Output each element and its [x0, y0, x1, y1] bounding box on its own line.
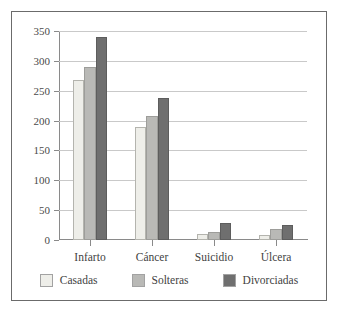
- bar: [259, 235, 270, 240]
- x-tick-mark: [214, 240, 215, 246]
- legend-item: Casadas: [40, 274, 98, 287]
- legend-label: Casadas: [60, 275, 98, 287]
- x-tick-label: Infarto: [74, 252, 105, 264]
- bar: [208, 232, 219, 240]
- bar: [197, 234, 208, 240]
- x-tick-mark: [90, 240, 91, 246]
- x-tick-mark: [152, 240, 153, 246]
- x-tick-label: Úlcera: [261, 252, 292, 264]
- y-tick-mark: [54, 121, 59, 122]
- x-tick-label: Suicidio: [195, 252, 233, 264]
- bar-group: [73, 31, 107, 240]
- y-tick-mark: [54, 91, 59, 92]
- legend-label: Divorciadas: [243, 275, 299, 287]
- x-tick-label: Cáncer: [136, 252, 169, 264]
- legend-swatch-icon: [40, 274, 53, 287]
- y-tick-mark: [54, 180, 59, 181]
- y-tick-label: 200: [34, 115, 51, 126]
- bar: [96, 37, 107, 240]
- y-tick-label: 50: [39, 205, 50, 216]
- y-tick-mark: [54, 150, 59, 151]
- bar: [73, 80, 84, 240]
- y-tick-label: 350: [34, 26, 51, 37]
- y-tick-label: 0: [45, 235, 51, 246]
- y-tick-label: 300: [34, 55, 51, 66]
- x-tick-mark: [276, 240, 277, 246]
- bar-group: [135, 31, 169, 240]
- chart-legend: CasadasSolterasDivorciadas: [12, 274, 326, 287]
- bar: [158, 98, 169, 240]
- plot-wrapper: 050100150200250300350 InfartoCáncerSuici…: [12, 12, 326, 300]
- plot-area: 050100150200250300350 InfartoCáncerSuici…: [59, 31, 307, 240]
- legend-swatch-icon: [132, 274, 145, 287]
- chart-frame: 050100150200250300350 InfartoCáncerSuici…: [11, 11, 327, 301]
- y-tick-mark: [54, 210, 59, 211]
- bar: [220, 223, 231, 240]
- bar: [146, 116, 157, 240]
- bar: [270, 229, 281, 240]
- bar: [135, 127, 146, 240]
- legend-item: Divorciadas: [223, 274, 299, 287]
- bar-group: [259, 31, 293, 240]
- y-tick-label: 100: [34, 175, 51, 186]
- bar-group: [197, 31, 231, 240]
- legend-swatch-icon: [223, 274, 236, 287]
- y-tick-label: 150: [34, 145, 51, 156]
- y-tick-label: 250: [34, 85, 51, 96]
- bar: [84, 67, 95, 240]
- legend-label: Solteras: [152, 275, 189, 287]
- y-tick-mark: [54, 240, 59, 241]
- y-tick-mark: [54, 61, 59, 62]
- y-tick-mark: [54, 31, 59, 32]
- legend-item: Solteras: [132, 274, 189, 287]
- bar: [282, 225, 293, 240]
